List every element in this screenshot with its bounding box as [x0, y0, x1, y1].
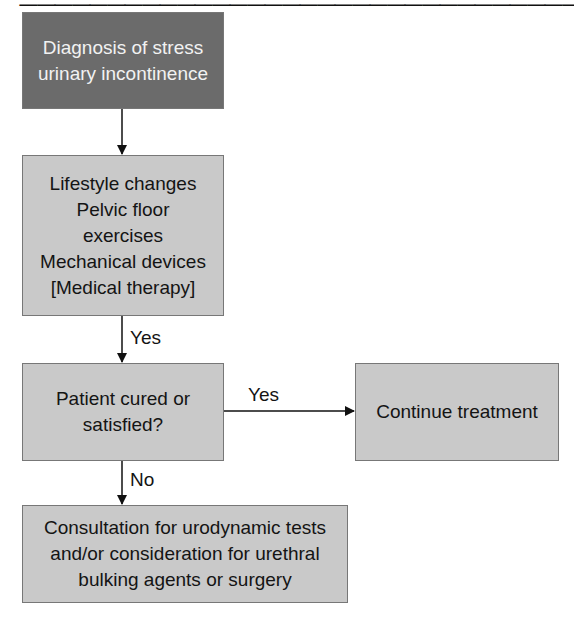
node-diagnosis: Diagnosis of stress urinary incontinence	[22, 12, 224, 109]
node-decision-cured: Patient cured or satisfied?	[22, 363, 224, 461]
node-consultation: Consultation for urodynamic tests and/or…	[22, 505, 348, 603]
edge-label-no: No	[130, 469, 154, 491]
node-continue-treatment: Continue treatment	[355, 363, 559, 461]
edge-label-yes-right: Yes	[248, 384, 279, 406]
node-conservative-treatment: Lifestyle changes Pelvic floor exercises…	[22, 155, 224, 316]
edge-label-yes-down: Yes	[130, 327, 161, 349]
